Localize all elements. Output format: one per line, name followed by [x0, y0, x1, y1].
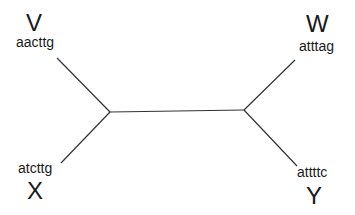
edge-internal [110, 110, 244, 112]
taxon-w-sequence: atttag [299, 39, 334, 53]
taxon-w-label: W [306, 12, 329, 36]
edge-x-branch [61, 112, 110, 163]
taxon-v-label: V [26, 11, 42, 35]
tree-edges [0, 0, 355, 215]
taxon-x-sequence: atcttg [18, 161, 52, 175]
edge-w-branch [244, 60, 295, 110]
edge-v-branch [57, 58, 110, 112]
taxon-y-sequence: attttc [297, 165, 327, 179]
edge-y-branch [244, 110, 297, 166]
taxon-x-label: X [27, 179, 43, 203]
taxon-v-sequence: aacttg [16, 35, 54, 49]
taxon-y-label: Y [306, 184, 322, 208]
